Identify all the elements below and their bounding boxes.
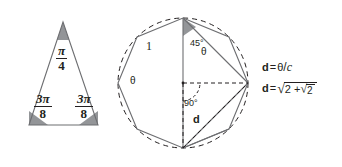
left-base-angle-denominator: 8: [34, 107, 52, 120]
eq2-lhs: d: [262, 82, 269, 94]
right-base-angle-numerator: 3π: [75, 92, 93, 105]
inner-radicand: 2: [306, 84, 315, 96]
right-chord-theta-label: θ: [201, 47, 207, 57]
apex-angle-wedge: [57, 22, 69, 40]
upper-right-chord: [183, 18, 248, 83]
outer-radicand-prefix: 2 +: [285, 83, 301, 95]
left-base-angle-numerator: 3π: [34, 92, 52, 105]
equation-d-nested-radical: d=√2 +√2: [262, 82, 342, 104]
triangle-apex-angle-label: π 4: [56, 44, 67, 73]
polygon-group: [118, 18, 248, 148]
apex-angle-denominator: 4: [56, 59, 67, 72]
diagonal-d-label: d: [193, 114, 200, 125]
polygon-side-label: 1: [146, 40, 152, 52]
geometry-figure: π 4 3π 8 3π 8 1 45° θ θ 90° d d=θ/c d=√2…: [0, 0, 342, 167]
eq1-equals: =: [269, 61, 277, 73]
triangle-right-base-angle-label: 3π 8: [75, 92, 93, 121]
left-chord-theta-label: θ: [130, 76, 136, 86]
circle-centre-point: [182, 82, 185, 85]
equation-d-theta-over-c: d=θ/c: [262, 60, 342, 82]
apex-angle-numerator: π: [56, 44, 67, 57]
outer-radical: √2 +√2: [277, 82, 316, 97]
central-angle-label: 90°: [184, 99, 198, 108]
bottom-right-chord: [183, 129, 229, 148]
outer-radicand: 2 +√2: [284, 82, 317, 97]
eq1-lhs: d: [262, 61, 269, 73]
inner-radical: √2: [300, 84, 314, 97]
eq2-equals: =: [269, 82, 277, 94]
equations-block: d=θ/c d=√2 +√2: [262, 60, 342, 104]
eq1-denominator: c: [287, 60, 292, 74]
right-base-angle-denominator: 8: [75, 107, 93, 120]
triangle-left-base-angle-label: 3π 8: [34, 92, 52, 121]
